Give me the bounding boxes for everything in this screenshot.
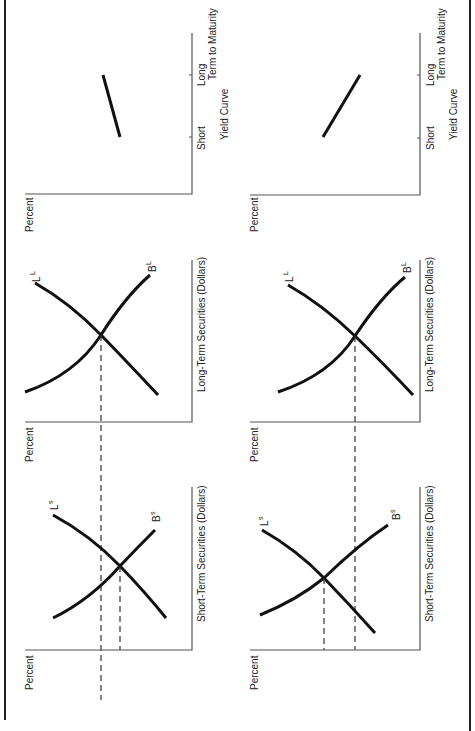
curve-superscript: s [389,509,396,513]
caption: Yield Curve [219,88,230,140]
panel-yield-curve-top: Percent Short Long Term to Maturity Yiel… [24,8,230,232]
curve-label-Bs: B s [149,511,162,522]
y-axis-label: Percent [249,655,260,690]
panel-long-term-top: Percent Long-Term Securities (Dollars) L… [24,257,207,700]
y-axis-label: Percent [24,655,35,690]
curve-letter: L [284,276,295,282]
curve-letter: L [31,276,42,282]
curve-letter: B [151,515,162,522]
curve-label-BL: B L [400,262,413,273]
axes [25,33,192,194]
curve-superscript: L [145,261,152,265]
curve-label-Bs: B s [389,509,402,520]
panel-short-term-top: Percent Short-Term Securities (Dollars) … [24,485,207,690]
x-axis-label: Long-Term Securities (Dollars) [196,257,207,392]
tick-label-long: Long [196,64,207,86]
lender-curve-Ls [53,515,166,618]
y-axis-label: Percent [24,197,35,232]
borrower-curve-Bs [53,530,155,618]
y-axis-label: Percent [249,197,260,232]
curve-superscript: L [400,262,407,266]
tick-label-long: Long [425,64,436,86]
curve-label-LL: L L [29,271,42,282]
curve-label-LL: L L [282,271,295,282]
tick-label-short: Short [196,126,207,150]
yield-curve-line [103,75,120,137]
y-axis-label: Percent [249,427,260,462]
x-axis-label: Short-Term Securities (Dollars) [424,485,435,622]
y-axis-label: Percent [24,427,35,462]
curve-letter: B [391,513,402,520]
rotated-figure: Percent Short Long Term to Maturity Yiel… [0,0,475,731]
x-axis-label: Term to Maturity [207,8,218,80]
curve-letter: B [147,265,158,272]
borrower-curve-BL [278,277,405,392]
x-axis-label: Long-Term Securities (Dollars) [424,257,435,392]
curve-letter: B [402,266,413,273]
panel-short-term-bottom: Percent Short-Term Securities (Dollars) … [249,485,435,690]
axes [25,487,192,650]
caption: Yield Curve [448,88,459,140]
curve-superscript: s [257,516,264,520]
borrower-curve-BL [25,275,150,392]
yield-curve-line [323,75,360,137]
curve-superscript: L [29,271,36,275]
x-axis-label: Term to Maturity [436,8,447,80]
curve-superscript: s [149,511,156,515]
curve-superscript: L [282,271,289,275]
curve-label-BL: B L [145,261,158,272]
curve-label-Ls: L s [257,516,270,526]
curve-label-Ls: L s [47,500,60,510]
curve-superscript: s [47,500,54,504]
x-axis-label: Short-Term Securities (Dollars) [196,485,207,622]
panel-yield-curve-bottom: Percent Short Long Term to Maturity Yiel… [249,8,459,232]
tick-label-short: Short [425,126,436,150]
panel-long-term-bottom: Percent Long-Term Securities (Dollars) L… [249,257,435,650]
axes [250,260,420,422]
